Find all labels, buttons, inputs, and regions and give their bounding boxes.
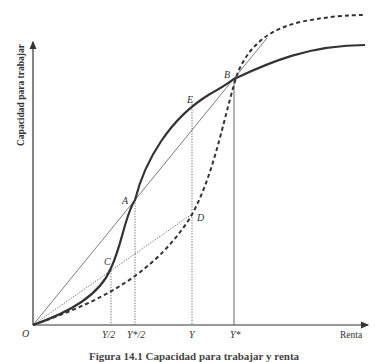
point-label-b: B xyxy=(224,69,230,80)
figure-caption: Figura 14.1 Capacidad para trabajar y re… xyxy=(0,350,388,362)
tick-label-y-half: Y/2 xyxy=(102,329,115,340)
line-o-d xyxy=(33,214,192,325)
x-axis-label: Renta xyxy=(340,330,363,340)
dashed-curve xyxy=(33,15,365,325)
tick-label-ystar-half: Y*/2 xyxy=(127,329,145,340)
tick-label-y: Y xyxy=(189,329,196,340)
point-label-a: A xyxy=(121,195,129,206)
point-label-d: D xyxy=(196,212,205,223)
origin-label: O xyxy=(22,328,29,339)
point-label-e: E xyxy=(186,94,193,105)
solid-curve xyxy=(33,45,365,325)
point-label-c: C xyxy=(104,256,111,267)
tick-label-ystar: Y* xyxy=(230,329,241,340)
y-axis-label: Capacidad para trabajar xyxy=(16,43,26,146)
